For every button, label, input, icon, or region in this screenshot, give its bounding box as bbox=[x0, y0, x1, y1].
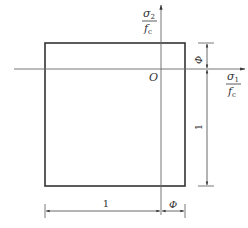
svg-text:fc: fc bbox=[143, 22, 152, 36]
bottom-one-label: 1 bbox=[103, 198, 109, 209]
bottom-phi-label: Φ bbox=[169, 199, 177, 210]
bottom-dimension: 1 Φ bbox=[45, 198, 185, 218]
svg-text:σ2: σ2 bbox=[143, 7, 155, 21]
right-dimension: Φ 1 bbox=[193, 43, 214, 186]
sigma1-axis-label: σ1 fc bbox=[226, 70, 241, 99]
right-one-label: 1 bbox=[193, 124, 204, 130]
envelope-square bbox=[45, 43, 185, 186]
svg-text:σ1: σ1 bbox=[227, 70, 239, 84]
right-phi-label: Φ bbox=[193, 56, 204, 64]
failure-envelope-diagram: σ2 fc σ1 fc O Φ 1 1 Φ bbox=[0, 0, 248, 228]
sigma2-axis-label: σ2 fc bbox=[142, 7, 157, 36]
origin-label: O bbox=[149, 71, 158, 84]
svg-text:fc: fc bbox=[227, 85, 236, 99]
